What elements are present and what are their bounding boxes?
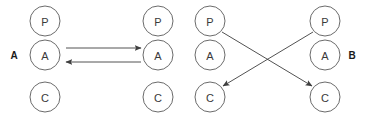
- node-c2-c: C: [143, 82, 173, 112]
- node-circle-c1-a: [30, 40, 60, 70]
- node-circle-c3-c: [195, 82, 225, 112]
- node-circle-c4-a: [310, 40, 340, 70]
- arrow-edge-p3-to-c4: [222, 32, 312, 86]
- node-c2-a: A: [143, 40, 173, 70]
- node-column-col-2: PAC: [143, 6, 173, 112]
- node-c3-p: P: [195, 6, 225, 36]
- node-c3-a: A: [195, 40, 225, 70]
- group-labels-layer: AB: [10, 50, 355, 61]
- node-circle-c2-a: [143, 40, 173, 70]
- node-c1-c: C: [30, 82, 60, 112]
- node-circle-c3-a: [195, 40, 225, 70]
- pac-diagram: PACPACPACPAC AB: [0, 0, 365, 122]
- node-column-col-3: PAC: [195, 6, 225, 112]
- edges-layer: [66, 32, 313, 86]
- node-c1-p: P: [30, 6, 60, 36]
- node-c1-a: A: [30, 40, 60, 70]
- node-circle-c4-p: [310, 6, 340, 36]
- nodes-layer: PACPACPACPAC: [30, 6, 340, 112]
- group-label-group-a: A: [10, 50, 17, 61]
- group-label-group-b: B: [348, 50, 355, 61]
- node-circle-c3-p: [195, 6, 225, 36]
- node-circle-c1-p: [30, 6, 60, 36]
- diagram-canvas: PACPACPACPAC AB: [0, 0, 365, 122]
- node-circle-c4-c: [310, 82, 340, 112]
- node-c4-p: P: [310, 6, 340, 36]
- arrow-edge-p4-to-c3: [223, 32, 313, 86]
- node-c2-p: P: [143, 6, 173, 36]
- node-circle-c1-c: [30, 82, 60, 112]
- node-c3-c: C: [195, 82, 225, 112]
- node-circle-c2-p: [143, 6, 173, 36]
- node-c4-a: A: [310, 40, 340, 70]
- node-c4-c: C: [310, 82, 340, 112]
- node-circle-c2-c: [143, 82, 173, 112]
- node-column-col-4: PAC: [310, 6, 340, 112]
- node-column-col-1: PAC: [30, 6, 60, 112]
